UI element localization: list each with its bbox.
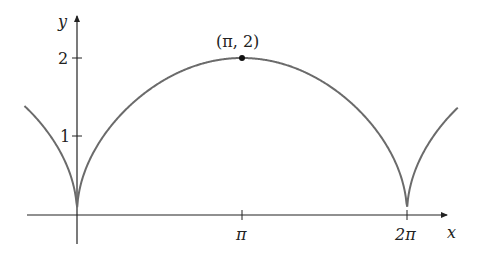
y-tick-label-2: 2 <box>58 49 68 68</box>
chart-canvas: y x 2 1 π 2π (π, 2) <box>0 0 479 255</box>
curve-line <box>24 58 457 207</box>
y-tick-label-1: 1 <box>60 127 70 146</box>
max-point <box>239 55 245 61</box>
x-tick-label-pi: π <box>235 225 247 244</box>
point-label: (π, 2) <box>216 32 259 51</box>
y-axis-label: y <box>57 12 68 31</box>
chart-svg: y x 2 1 π 2π (π, 2) <box>0 0 479 255</box>
x-axis-label: x <box>447 223 456 242</box>
x-tick-label-2pi: 2π <box>394 225 416 244</box>
